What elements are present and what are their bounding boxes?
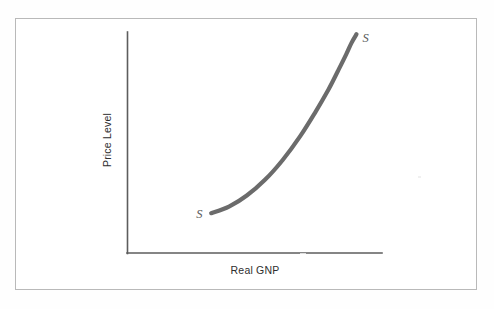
x-axis-title: Real GNP (231, 264, 280, 276)
scan-artifact (418, 176, 421, 178)
supply-curve (211, 34, 356, 213)
scan-artifact (300, 253, 306, 254)
supply-curve-label-upper: S (363, 31, 370, 45)
supply-curve-label-lower: S (196, 207, 203, 221)
figure-container: S S Price Level Real GNP (0, 0, 494, 309)
chart-plot-area: S S (0, 0, 494, 309)
y-axis-title: Price Level (101, 113, 113, 167)
